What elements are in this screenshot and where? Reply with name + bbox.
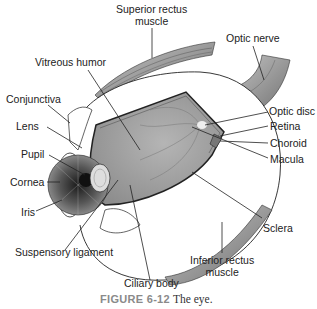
label-line-2: muscle [190, 266, 254, 278]
eye-diagram: Superior rectus muscle Optic nerve Vitre… [0, 0, 317, 309]
label-inferior-rectus-muscle: Inferior rectus muscle [190, 254, 254, 278]
label-cornea: Cornea [10, 176, 44, 188]
label-optic-nerve: Optic nerve [226, 32, 280, 44]
label-ciliary-body: Ciliary body [124, 277, 179, 289]
label-lens: Lens [16, 120, 39, 132]
label-optic-disc: Optic disc [269, 105, 315, 117]
label-superior-rectus-muscle: Superior rectus muscle [116, 3, 187, 27]
lens [90, 164, 110, 192]
label-line-2: muscle [116, 15, 187, 27]
label-iris: Iris [21, 206, 35, 218]
label-pupil: Pupil [21, 148, 44, 160]
label-choroid: Choroid [270, 137, 307, 149]
label-line-1: Inferior rectus [190, 254, 254, 266]
label-line-1: Superior rectus [116, 3, 187, 15]
label-vitreous-humor: Vitreous humor [35, 56, 106, 68]
label-sclera: Sclera [263, 222, 293, 234]
label-retina: Retina [270, 120, 300, 132]
label-suspensory-ligament: Suspensory ligament [15, 246, 113, 258]
figure-number: FIGURE 6-12 [100, 293, 170, 305]
label-macula: Macula [270, 153, 304, 165]
label-conjunctiva: Conjunctiva [6, 93, 61, 105]
figure-caption: FIGURE 6-12 The eye. [100, 293, 213, 305]
figure-caption-text: The eye. [173, 293, 213, 305]
